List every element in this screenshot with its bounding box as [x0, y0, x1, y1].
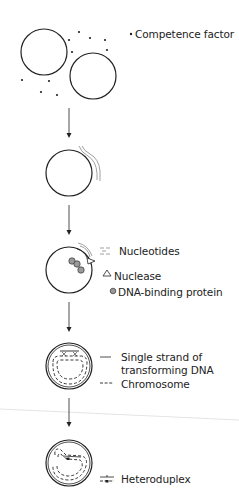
label-heteroduplex: Heteroduplex — [121, 473, 191, 485]
heteroduplex-icon — [100, 475, 114, 482]
cell-right — [70, 53, 116, 99]
nuclease-icon — [103, 270, 111, 276]
dna-binding-protein-icon — [110, 288, 116, 294]
arrow-2 — [67, 205, 72, 235]
label-single-strand-line2: transforming DNA — [121, 364, 214, 376]
nucleotides-icon — [100, 248, 110, 254]
step-1-cells — [21, 29, 116, 99]
arrow-3 — [67, 302, 72, 332]
label-chromosome: Chromosome — [121, 378, 190, 390]
step-5-cell — [46, 440, 92, 486]
competence-factor-icon — [130, 33, 132, 35]
label-nuclease: Nuclease — [114, 270, 161, 282]
label-competence-factor: Competence factor — [135, 28, 234, 40]
label-nucleotides: Nucleotides — [119, 245, 180, 257]
step-2-cell — [46, 146, 100, 196]
divider-line — [0, 409, 239, 420]
label-dna-binding-protein: DNA-binding protein — [118, 286, 223, 298]
arrow-1 — [67, 108, 72, 138]
dna-binding-proteins — [69, 258, 84, 273]
step-3-cell — [46, 243, 95, 293]
label-single-strand-line1: Single strand of — [121, 351, 202, 363]
nuclease-triangle — [87, 258, 95, 264]
step-4-cell — [46, 343, 92, 389]
cell-left — [21, 29, 67, 75]
